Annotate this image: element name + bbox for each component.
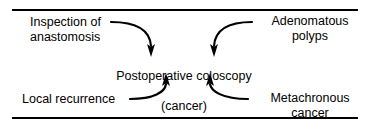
arrow-adenomatous-to-center <box>214 22 252 46</box>
center-node-label: Postoperative coloscopy (cancer) <box>94 54 274 129</box>
source-label-adenomatous: Adenomatous polyps <box>258 14 362 44</box>
center-node-subtitle: (cancer) <box>94 99 274 114</box>
arrow-inspection-to-center <box>111 22 151 46</box>
source-label-inspection: Inspection of anastomosis <box>30 15 101 45</box>
concept-diagram-figure: Inspection of anastomosis Adenomatous po… <box>0 0 368 130</box>
center-node-title: Postoperative coloscopy <box>94 69 274 84</box>
